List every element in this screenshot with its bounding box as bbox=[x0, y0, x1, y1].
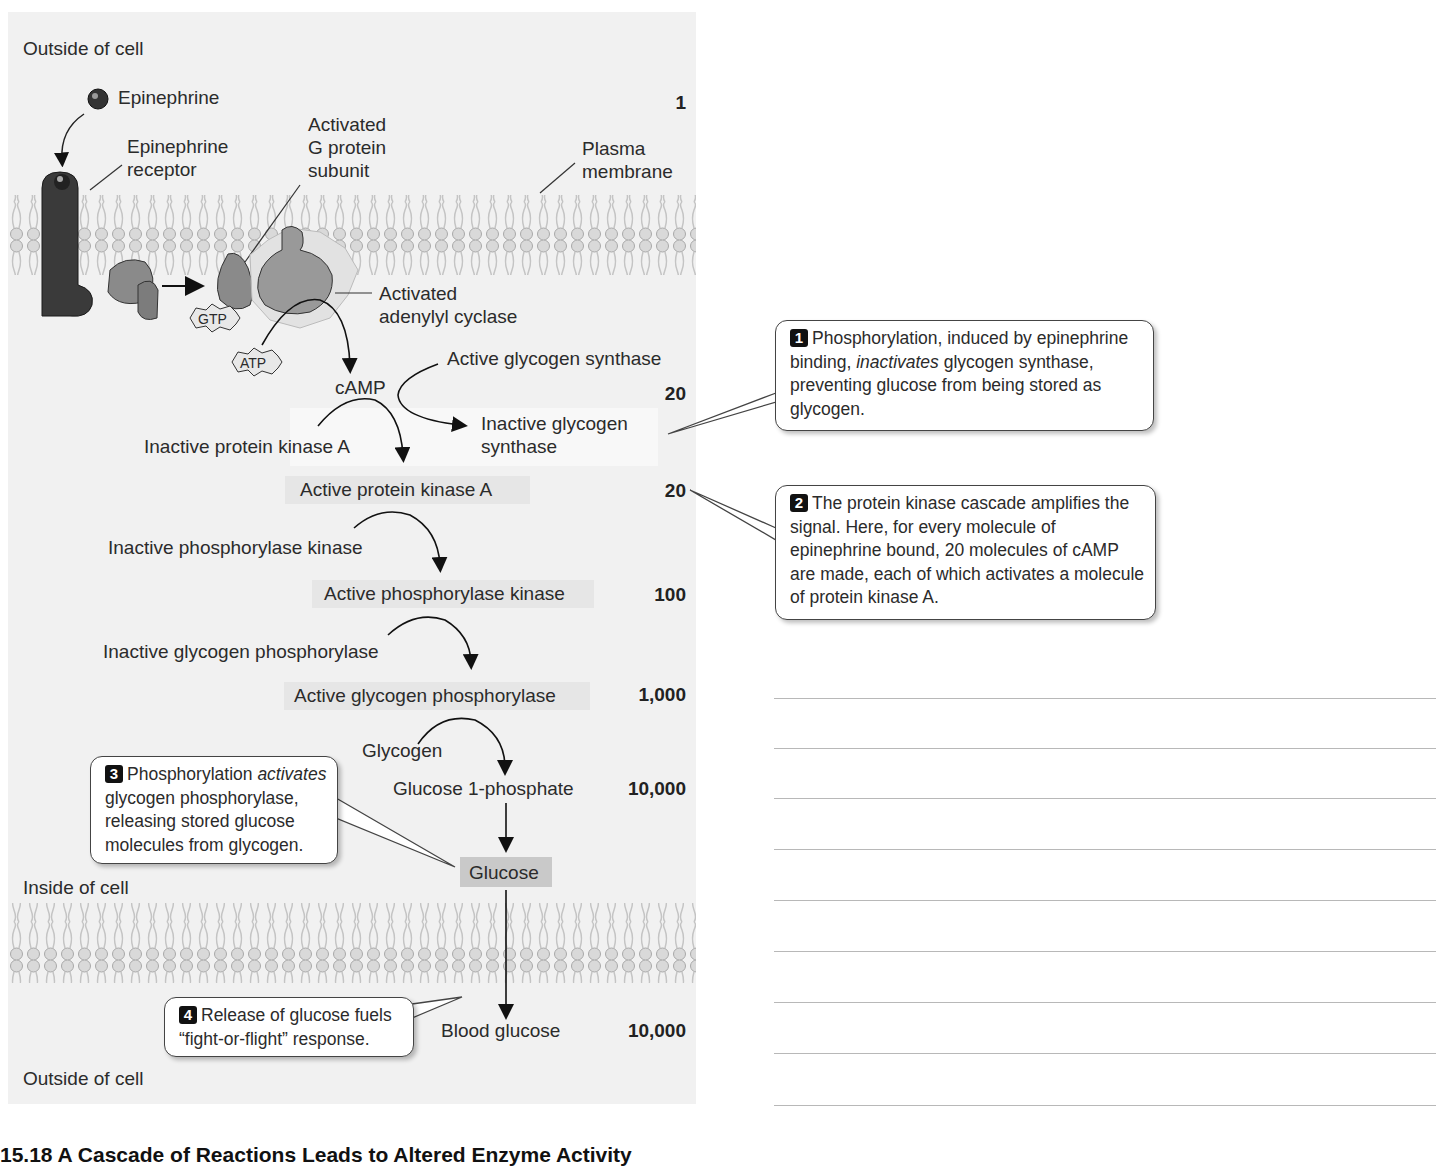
notes-line bbox=[774, 748, 1436, 749]
region-outside-bottom: Outside of cell bbox=[23, 1068, 143, 1090]
label-glucose: Glucose bbox=[469, 862, 539, 884]
amp-pka: 20 bbox=[596, 480, 686, 502]
step-badge-3: 3 bbox=[105, 765, 123, 783]
label-inactive-pka: Inactive protein kinase A bbox=[144, 436, 350, 458]
label-receptor-2: receptor bbox=[127, 159, 197, 181]
label-cyclase-1: Activated bbox=[379, 283, 457, 305]
epinephrine-icon bbox=[88, 89, 108, 109]
callout-2-tail bbox=[690, 490, 776, 540]
callout-1: 1Phosphorylation, induced by epinephrine… bbox=[775, 320, 1154, 431]
amp-gp: 1,000 bbox=[596, 684, 686, 706]
amp-blood-glucose: 10,000 bbox=[596, 1020, 686, 1042]
label-membrane-1: Plasma bbox=[582, 138, 645, 160]
amp-epinephrine: 1 bbox=[596, 92, 686, 114]
notes-line bbox=[774, 1105, 1436, 1106]
callout-4: 4Release of glucose fuels “fight-or-flig… bbox=[164, 997, 414, 1057]
label-active-gp: Active glycogen phosphorylase bbox=[294, 685, 556, 707]
label-atp: ATP bbox=[240, 352, 266, 374]
notes-line bbox=[774, 798, 1436, 799]
label-camp: cAMP bbox=[335, 377, 386, 399]
label-inactive-glycogen-synthase-1: Inactive glycogen bbox=[481, 413, 628, 435]
amp-phk: 100 bbox=[596, 584, 686, 606]
callout-3-tail bbox=[336, 798, 455, 867]
notes-line bbox=[774, 1002, 1436, 1003]
label-membrane-2: membrane bbox=[582, 161, 673, 183]
label-inactive-phk: Inactive phosphorylase kinase bbox=[108, 537, 363, 559]
label-gtp: GTP bbox=[198, 308, 227, 330]
notes-line bbox=[774, 849, 1436, 850]
label-inactive-glycogen-synthase-2: synthase bbox=[481, 436, 557, 458]
notes-line bbox=[774, 1053, 1436, 1054]
region-inside: Inside of cell bbox=[23, 877, 129, 899]
label-cyclase-2: adenylyl cyclase bbox=[379, 306, 517, 328]
amp-camp: 20 bbox=[596, 383, 686, 405]
step-badge-4: 4 bbox=[179, 1006, 197, 1024]
label-inactive-gp: Inactive glycogen phosphorylase bbox=[103, 641, 379, 663]
notes-line bbox=[774, 951, 1436, 952]
label-active-glycogen-synthase: Active glycogen synthase bbox=[447, 348, 661, 370]
callout-2: 2The protein kinase cascade amplifies th… bbox=[775, 485, 1156, 620]
callout-4-tail bbox=[412, 997, 462, 1018]
label-gprotein-3: subunit bbox=[308, 160, 369, 182]
label-receptor-1: Epinephrine bbox=[127, 136, 228, 158]
callout-3: 3Phosphorylation activates glycogen phos… bbox=[90, 756, 338, 864]
label-blood-glucose: Blood glucose bbox=[441, 1020, 560, 1042]
label-g1p: Glucose 1-phosphate bbox=[393, 778, 574, 800]
label-glycogen: Glycogen bbox=[362, 740, 442, 762]
label-epinephrine: Epinephrine bbox=[118, 87, 219, 109]
label-gprotein-2: G protein bbox=[308, 137, 386, 159]
notes-line bbox=[774, 698, 1436, 699]
notes-line bbox=[774, 900, 1436, 901]
label-active-pka: Active protein kinase A bbox=[300, 479, 492, 501]
region-outside-top: Outside of cell bbox=[23, 38, 143, 60]
plasma-membrane-bottom bbox=[8, 903, 696, 983]
label-active-phk: Active phosphorylase kinase bbox=[324, 583, 565, 605]
label-gprotein-1: Activated bbox=[308, 114, 386, 136]
step-badge-1: 1 bbox=[790, 329, 808, 347]
amp-g1p: 10,000 bbox=[596, 778, 686, 800]
step-badge-2: 2 bbox=[790, 494, 808, 512]
figure-caption: 15.18 A Cascade of Reactions Leads to Al… bbox=[0, 1143, 632, 1167]
